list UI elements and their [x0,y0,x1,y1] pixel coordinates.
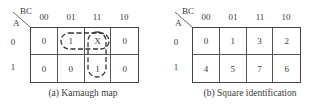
row-label-1: 1 [172,63,180,72]
cell-m1: 1 [58,28,85,55]
row-label-1: 1 [9,63,17,72]
row-label-0: 0 [172,38,180,47]
kmap-grid-a: 0 1 X 0 0 0 1 0 [30,27,139,83]
row-label-0: 0 [9,38,17,47]
cell-m5: 0 [58,55,85,82]
cell-id-0: 0 [193,28,220,55]
cell-id-5: 5 [220,55,247,82]
caption-b: (b) Square identification [190,88,310,98]
cell-m3: X [85,28,112,55]
cell-id-3: 3 [247,28,274,55]
cell-id-6: 6 [273,55,300,82]
cell-m0: 0 [31,28,58,55]
cell-m4: 0 [31,55,58,82]
column-label-01: 01 [225,13,241,22]
column-variable-label: BC [20,7,32,16]
cell-id-7: 7 [247,55,274,82]
column-label-01: 01 [63,13,79,22]
caption-a: (a) Karnaugh map [38,88,128,98]
column-label-10: 10 [278,13,294,22]
cell-id-2: 2 [273,28,300,55]
row-variable-label: A [175,19,182,28]
karnaugh-map-a: BC A 00 01 11 10 0 1 0 1 X 0 0 0 1 0 (a)… [0,0,158,105]
cell-m7: 1 [85,55,112,82]
karnaugh-map-b: BC A 00 01 11 10 0 1 0 1 3 2 4 5 7 6 (b)… [160,0,317,105]
column-label-00: 00 [198,13,214,22]
cell-id-4: 4 [193,55,220,82]
column-label-10: 10 [116,13,132,22]
column-label-11: 11 [252,13,268,22]
column-label-00: 00 [36,13,52,22]
row-variable-label: A [13,19,20,28]
cell-m6: 0 [111,55,138,82]
column-variable-label: BC [182,7,194,16]
kmap-grid-b: 0 1 3 2 4 5 7 6 [192,27,301,83]
cell-id-1: 1 [220,28,247,55]
column-label-11: 11 [89,13,105,22]
cell-m2: 0 [111,28,138,55]
